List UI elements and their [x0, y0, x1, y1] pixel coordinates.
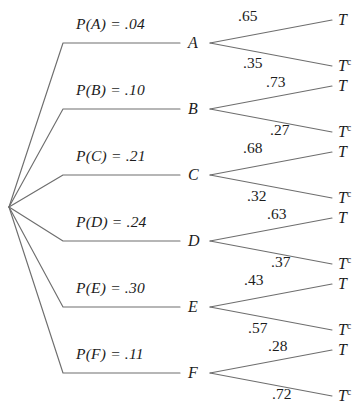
probability-tree-diagram: P(A) = .04 P(B) = .10 P(C) = .21 P(D) = … — [0, 0, 361, 415]
leaf-e-tc: Tc — [338, 322, 351, 338]
leaf-b-tc-sup: c — [347, 123, 351, 133]
leaf-a-tc-text: T — [338, 57, 347, 74]
leaf-d-t: T — [338, 210, 347, 226]
leaf-d-t-text: T — [338, 209, 347, 226]
stage2-prob-c-tc: .32 — [247, 188, 266, 204]
stage2-edge-a-tc — [210, 43, 332, 66]
stage1-prob-label-f: P(F) = .11 — [76, 346, 144, 362]
tree-node-d: D — [188, 233, 200, 249]
stage2-edge-a-t — [210, 20, 332, 43]
stage2-edge-f-tc — [210, 373, 332, 396]
stage2-prob-a-t: .65 — [238, 8, 257, 24]
stage2-prob-f-t: .28 — [268, 338, 287, 354]
stage1-prob-label-a: P(A) = .04 — [76, 16, 145, 32]
stage1-prob-label-e: P(E) = .30 — [76, 280, 145, 296]
stage2-edge-c-tc — [210, 175, 332, 198]
leaf-b-t-text: T — [338, 77, 347, 94]
stage2-prob-d-t: .63 — [267, 206, 286, 222]
leaf-f-tc-sup: c — [347, 387, 351, 397]
leaf-b-tc: Tc — [338, 124, 351, 140]
leaf-c-tc-sup: c — [347, 189, 351, 199]
leaf-b-tc-text: T — [338, 123, 347, 140]
leaf-f-t-text: T — [338, 341, 347, 358]
leaf-c-t-text: T — [338, 143, 347, 160]
tree-node-a: A — [188, 35, 198, 51]
stage2-prob-f-tc: .72 — [272, 386, 291, 402]
leaf-d-tc-sup: c — [347, 255, 351, 265]
leaf-e-t: T — [338, 276, 347, 292]
leaf-b-t: T — [338, 78, 347, 94]
stage1-edge-c — [9, 175, 180, 207]
tree-node-f: F — [188, 365, 198, 381]
stage2-prob-d-tc: .37 — [271, 254, 290, 270]
leaf-c-tc: Tc — [338, 190, 351, 206]
stage1-prob-label-c: P(C) = .21 — [76, 148, 146, 164]
stage2-edge-e-t — [210, 284, 332, 307]
leaf-f-tc: Tc — [338, 388, 351, 404]
leaf-e-tc-text: T — [338, 321, 347, 338]
leaf-e-t-text: T — [338, 275, 347, 292]
stage2-prob-b-t: .73 — [266, 74, 285, 90]
leaf-a-tc-sup: c — [347, 57, 351, 67]
tree-node-e: E — [188, 299, 198, 315]
stage2-edge-e-tc — [210, 307, 332, 330]
leaf-c-tc-text: T — [338, 189, 347, 206]
stage1-edge-a — [9, 43, 180, 207]
leaf-c-t: T — [338, 144, 347, 160]
leaf-e-tc-sup: c — [347, 321, 351, 331]
leaf-f-tc-text: T — [338, 387, 347, 404]
tree-lines — [0, 0, 361, 415]
stage2-prob-a-tc: .35 — [243, 55, 262, 71]
stage1-prob-label-d: P(D) = .24 — [76, 214, 147, 230]
leaf-a-tc: Tc — [338, 58, 351, 74]
stage2-prob-b-tc: .27 — [270, 122, 289, 138]
stage2-prob-e-tc: .57 — [248, 320, 267, 336]
leaf-d-tc: Tc — [338, 256, 351, 272]
leaf-a-t-text: T — [338, 11, 347, 28]
leaf-d-tc-text: T — [338, 255, 347, 272]
stage2-prob-e-t: .43 — [244, 272, 263, 288]
tree-node-b: B — [188, 101, 198, 117]
stage2-edge-c-t — [210, 152, 332, 175]
stage2-prob-c-t: .68 — [243, 140, 262, 156]
leaf-a-t: T — [338, 12, 347, 28]
leaf-f-t: T — [338, 342, 347, 358]
tree-node-c: C — [188, 167, 199, 183]
stage1-prob-label-b: P(B) = .10 — [76, 82, 145, 98]
